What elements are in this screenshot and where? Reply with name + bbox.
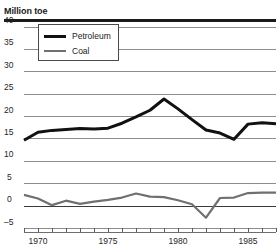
x-tick-label-1975: 1975 (99, 236, 118, 246)
x-tick-label-1985: 1985 (239, 236, 258, 246)
series-line-petroleum (24, 99, 276, 140)
legend-label-coal: Coal (72, 47, 89, 56)
x-tick-1987 (276, 228, 277, 232)
x-tick-label-1980: 1980 (169, 236, 188, 246)
legend-swatch-petroleum (44, 35, 66, 38)
legend-item-petroleum: Petroleum (44, 30, 111, 42)
legend-label-petroleum: Petroleum (72, 32, 111, 41)
x-axis-line (24, 232, 276, 233)
x-tick-label-1970: 1970 (29, 236, 48, 246)
legend-swatch-coal (44, 50, 66, 53)
legend-item-coal: Coal (44, 45, 89, 57)
chart-container: Million toe 4035302520151050–5 197019751… (0, 0, 279, 251)
chart-legend: Petroleum Coal (38, 24, 119, 61)
series-line-coal (24, 193, 276, 218)
